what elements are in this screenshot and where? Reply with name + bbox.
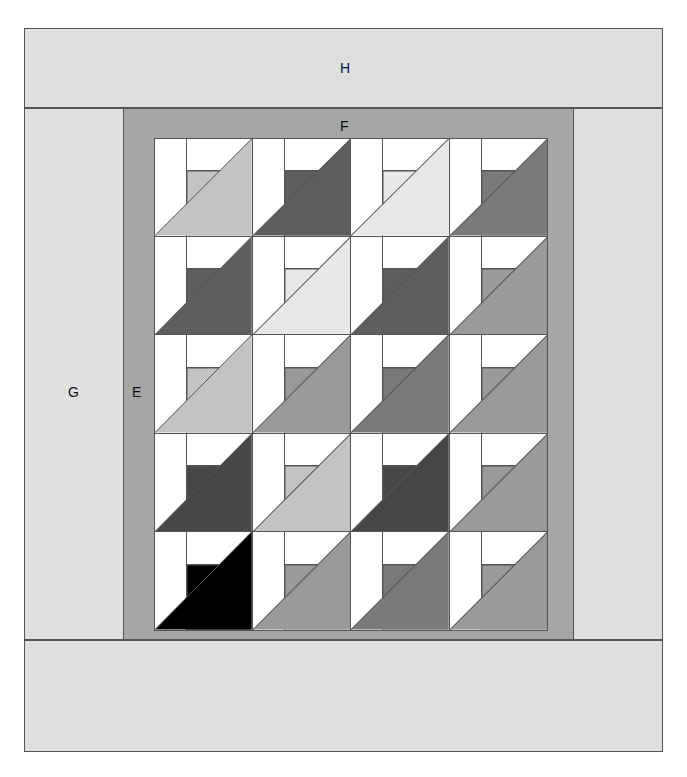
outer-border-top-H — [24, 28, 663, 108]
quilt-block-grid — [154, 138, 548, 631]
quilt-block — [253, 532, 352, 631]
block-small-square — [285, 171, 317, 203]
block-small-square — [285, 269, 317, 301]
quilt-block — [351, 532, 450, 631]
block-left-white-strip — [155, 335, 187, 433]
quilt-block — [450, 138, 549, 237]
block-small-square — [482, 466, 514, 498]
block-top-white-patch — [383, 532, 448, 564]
quilt-block — [351, 237, 450, 336]
block-small-square — [285, 466, 317, 498]
quilt-block — [253, 335, 352, 434]
quilt-block — [253, 138, 352, 237]
block-small-square — [383, 368, 415, 401]
block-top-white-patch — [285, 139, 350, 171]
block-small-square — [285, 565, 317, 597]
quilt-diagram-page: H G F E — [0, 0, 687, 777]
block-small-square — [383, 466, 415, 498]
block-left-white-strip — [351, 532, 383, 630]
block-left-white-strip — [155, 434, 187, 532]
quilt-block — [450, 532, 549, 631]
block-small-square — [187, 466, 219, 498]
quilt-block — [450, 237, 549, 336]
block-left-white-strip — [351, 139, 383, 236]
quilt-block — [450, 335, 549, 434]
block-left-white-strip — [450, 335, 482, 433]
block-left-white-strip — [155, 139, 187, 236]
block-top-white-patch — [482, 532, 547, 564]
block-top-white-patch — [285, 237, 350, 269]
quilt-block — [154, 138, 253, 237]
block-top-white-patch — [285, 434, 350, 466]
block-left-white-strip — [253, 335, 285, 433]
block-top-white-patch — [383, 335, 448, 368]
block-small-square — [383, 171, 415, 203]
block-left-white-strip — [450, 434, 482, 532]
block-left-white-strip — [351, 434, 383, 532]
quilt-block — [253, 434, 352, 533]
block-small-square — [482, 269, 514, 301]
block-top-white-patch — [383, 434, 448, 466]
quilt-block — [351, 434, 450, 533]
block-left-white-strip — [253, 532, 285, 630]
block-left-white-strip — [351, 237, 383, 335]
quilt-block — [351, 335, 450, 434]
block-top-white-patch — [187, 335, 251, 368]
block-small-square — [482, 565, 514, 597]
block-small-square — [383, 269, 415, 301]
quilt-block — [154, 434, 253, 533]
quilt-diagram: H G F E — [24, 28, 663, 752]
block-top-white-patch — [285, 532, 350, 564]
block-top-white-patch — [482, 139, 547, 171]
block-top-white-patch — [482, 237, 547, 269]
block-small-square — [187, 171, 219, 203]
block-top-white-patch — [187, 237, 251, 269]
block-left-white-strip — [351, 335, 383, 433]
block-top-white-patch — [383, 139, 448, 171]
quilt-block — [351, 138, 450, 237]
block-small-square — [187, 269, 219, 301]
block-top-white-patch — [383, 237, 448, 269]
block-left-white-strip — [450, 237, 482, 335]
block-top-white-patch — [187, 139, 251, 171]
block-left-white-strip — [253, 237, 285, 335]
block-left-white-strip — [155, 237, 187, 335]
quilt-block — [450, 434, 549, 533]
block-left-white-strip — [155, 532, 187, 630]
block-small-square — [482, 171, 514, 203]
block-left-white-strip — [253, 139, 285, 236]
block-top-white-patch — [285, 335, 350, 368]
quilt-block — [154, 335, 253, 434]
block-small-square — [383, 565, 415, 597]
block-small-square — [187, 368, 219, 401]
quilt-block — [154, 237, 253, 336]
block-top-white-patch — [187, 434, 251, 466]
block-left-white-strip — [450, 139, 482, 236]
block-small-square — [187, 565, 219, 597]
block-small-square — [482, 368, 514, 401]
quilt-block — [253, 237, 352, 336]
block-small-square — [285, 368, 317, 401]
block-left-white-strip — [253, 434, 285, 532]
outer-border-bottom — [24, 640, 663, 752]
block-top-white-patch — [482, 434, 547, 466]
quilt-block — [154, 532, 253, 631]
block-left-white-strip — [450, 532, 482, 630]
block-top-white-patch — [187, 532, 251, 564]
block-top-white-patch — [482, 335, 547, 368]
